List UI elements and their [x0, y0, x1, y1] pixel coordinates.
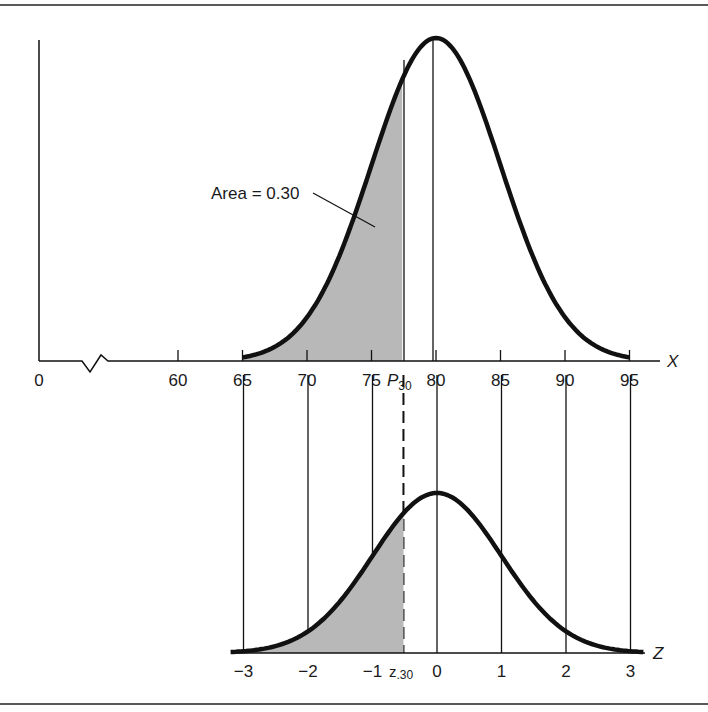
z-axis-label: Z [652, 644, 664, 663]
upper-tick-label: 75 [362, 371, 381, 390]
lower-tick-label: 2 [561, 662, 570, 681]
upper-tick-label: 0 [34, 371, 43, 390]
lower-shaded-area [231, 513, 404, 653]
upper-tick-label: 85 [491, 371, 510, 390]
z30-label: z.30 [389, 663, 414, 682]
lower-tick-label: −2 [298, 662, 317, 681]
lower-tick-labels: −3−2−10123 [234, 662, 635, 681]
lower-tick-label: 3 [626, 662, 635, 681]
upper-tick-label: 65 [233, 371, 252, 390]
upper-plot: Area = 0.30 06065707580859095 P30 X [34, 38, 679, 393]
upper-tick-labels: 06065707580859095 [34, 371, 639, 390]
upper-normal-curve [243, 38, 630, 357]
upper-tick-label: 70 [298, 371, 317, 390]
x-axis-label: X [666, 352, 679, 371]
upper-tick-label: 80 [427, 371, 446, 390]
upper-tick-label: 90 [556, 371, 575, 390]
p30-label: P30 [387, 371, 412, 393]
lower-tick-label: −3 [234, 662, 253, 681]
area-annotation: Area = 0.30 [211, 184, 299, 203]
upper-tick-label: 60 [169, 371, 188, 390]
connector-lines [244, 375, 631, 653]
lower-tick-label: −1 [363, 662, 382, 681]
lower-tick-label: 1 [497, 662, 506, 681]
lower-plot: −3−2−10123 z.30 Z [231, 493, 664, 682]
normal-distribution-figure: Area = 0.30 06065707580859095 P30 X −3−2… [0, 0, 708, 712]
upper-shaded-area [243, 79, 403, 361]
upper-tick-label: 95 [620, 371, 639, 390]
lower-tick-label: 0 [432, 662, 441, 681]
